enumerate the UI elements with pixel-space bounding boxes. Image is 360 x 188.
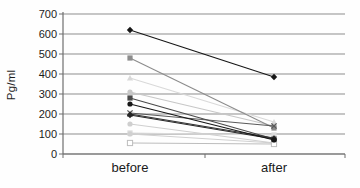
series-marker-circle [271, 137, 276, 142]
y-tick-label: 300 [39, 88, 57, 100]
series-line [130, 143, 274, 144]
slope-chart-figure: 7006005004003002001000 Pg/ml before afte… [0, 0, 360, 188]
series-marker-circle [127, 89, 132, 94]
series-marker-open-square [127, 140, 132, 145]
series-marker-circle [127, 121, 132, 126]
series-marker-square [127, 55, 132, 60]
series-marker-diamond [127, 27, 133, 33]
y-axis-title-wrap: Pg/ml [0, 0, 22, 170]
series-marker-square [127, 95, 132, 100]
series-marker-triangle [127, 75, 133, 81]
series-marker-circle [127, 101, 132, 106]
y-axis-title: Pg/ml [5, 70, 17, 100]
y-tick-label: 600 [39, 28, 57, 40]
y-tick-label: 500 [39, 48, 57, 60]
y-tick-label: 0 [51, 148, 57, 160]
series-marker-diamond [271, 74, 277, 80]
y-tick-label: 400 [39, 68, 57, 80]
series-marker-circle [127, 131, 132, 136]
x-axis-label-after: after [234, 160, 314, 175]
y-tick-label: 100 [39, 128, 57, 140]
y-tick-label: 200 [39, 108, 57, 120]
y-tick-label: 700 [39, 8, 57, 20]
x-axis-label-before: before [90, 160, 170, 175]
